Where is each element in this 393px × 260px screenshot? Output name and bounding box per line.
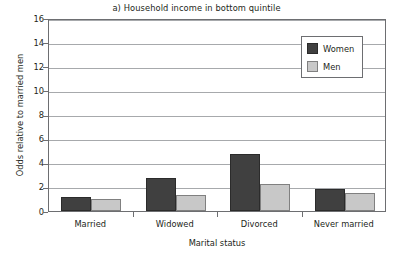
bar-married-men bbox=[91, 199, 121, 211]
y-axis-tick-mark bbox=[43, 212, 48, 213]
x-axis-label-divorced: Divorced bbox=[217, 219, 302, 229]
legend-swatch-women-icon bbox=[307, 43, 318, 54]
bar-never-married-men bbox=[345, 193, 375, 211]
gridline bbox=[49, 140, 385, 141]
gridline bbox=[49, 164, 385, 165]
x-axis-separator-tick bbox=[217, 212, 218, 217]
bar-widowed-women bbox=[146, 178, 176, 211]
legend-label-women: Women bbox=[323, 44, 354, 54]
gridline bbox=[49, 92, 385, 93]
bar-widowed-men bbox=[176, 195, 206, 211]
chart-legend: Women Men bbox=[301, 36, 363, 78]
chart-figure: a) Household income in bottom quintile O… bbox=[0, 0, 393, 260]
x-axis-label-married: Married bbox=[48, 219, 133, 229]
gridline bbox=[49, 20, 385, 21]
chart-title: a) Household income in bottom quintile bbox=[0, 3, 393, 13]
x-axis-separator-tick bbox=[133, 212, 134, 217]
x-axis-label-widowed: Widowed bbox=[133, 219, 218, 229]
bar-divorced-men bbox=[260, 184, 290, 211]
legend-swatch-men-icon bbox=[307, 61, 318, 72]
plot-area: Women Men bbox=[48, 19, 386, 212]
x-axis-label-never-married: Never married bbox=[302, 219, 387, 229]
y-axis-title: Odds relative to married men bbox=[15, 15, 25, 215]
bar-married-women bbox=[61, 197, 91, 211]
bar-divorced-women bbox=[230, 154, 260, 211]
x-axis-separator-tick bbox=[302, 212, 303, 217]
x-axis-title: Marital status bbox=[48, 238, 386, 248]
legend-label-men: Men bbox=[323, 62, 341, 72]
gridline bbox=[49, 116, 385, 117]
bar-never-married-women bbox=[315, 189, 345, 211]
